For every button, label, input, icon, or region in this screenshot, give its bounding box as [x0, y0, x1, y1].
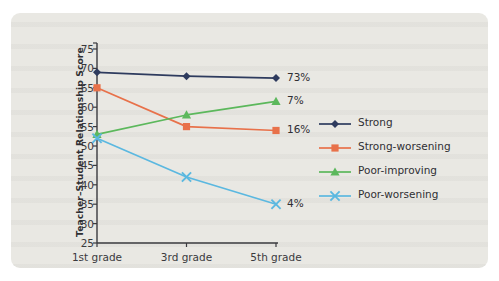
- marker-diamond: [272, 74, 280, 82]
- series-line-poor-worsening: [97, 138, 276, 204]
- marker-diamond: [183, 72, 191, 80]
- chart-plot-area: [0, 0, 499, 281]
- marker-square: [183, 123, 190, 130]
- marker-triangle: [271, 97, 280, 105]
- marker-square: [272, 127, 279, 134]
- marker-diamond: [93, 68, 101, 76]
- marker-square: [93, 84, 100, 91]
